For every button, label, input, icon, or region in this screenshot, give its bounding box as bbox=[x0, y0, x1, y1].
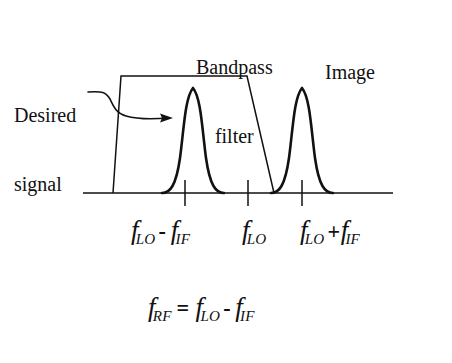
desired-signal-label-line2: signal bbox=[14, 173, 76, 196]
f-subscript: LO bbox=[200, 308, 220, 324]
desired-signal-pointer-arrow bbox=[88, 92, 168, 119]
bandpass-filter-label: Bandpass filter bbox=[196, 10, 273, 194]
tick-label-f-lo: fLO bbox=[242, 215, 269, 246]
f-subscript: LO bbox=[136, 231, 156, 247]
plus-operator: + bbox=[327, 219, 340, 244]
f-subscript: IF bbox=[345, 231, 360, 247]
image-signal-peak bbox=[271, 88, 333, 193]
figure-canvas: Bandpass filter Desired signal Image fLO… bbox=[0, 0, 452, 363]
minus-operator: - bbox=[223, 296, 231, 321]
equation-f-rf: fRF=fLO-fIF bbox=[148, 292, 257, 323]
f-subscript: IF bbox=[176, 231, 191, 247]
f-subscript: LO bbox=[305, 231, 325, 247]
desired-signal-label-line1: Desired bbox=[14, 104, 76, 127]
f-subscript: RF bbox=[153, 308, 172, 324]
f-subscript: LO bbox=[247, 231, 267, 247]
equals-operator: = bbox=[174, 296, 191, 321]
tick-label-f-lo-minus-f-if: fLO-fIF bbox=[131, 215, 193, 246]
bandpass-filter-label-line2: filter bbox=[196, 125, 273, 148]
f-subscript: IF bbox=[240, 308, 255, 324]
image-signal-label: Image bbox=[325, 61, 375, 84]
bandpass-filter-label-line1: Bandpass bbox=[196, 56, 273, 79]
minus-operator: - bbox=[158, 219, 166, 244]
tick-label-f-lo-plus-f-if: fLO+fIF bbox=[300, 215, 363, 246]
desired-signal-label: Desired signal bbox=[14, 58, 76, 242]
